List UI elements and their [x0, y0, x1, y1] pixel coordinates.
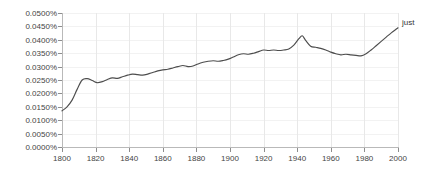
x-tick-label: 1920: [255, 154, 273, 163]
y-tick-label: 0.0400%: [25, 36, 57, 45]
x-tick-label: 1880: [187, 154, 205, 163]
y-tick-label: 0.0100%: [25, 116, 57, 125]
x-tick-label: 1860: [154, 154, 172, 163]
x-tick-mark: [230, 148, 231, 152]
y-axis-labels: 0.0500%0.0450%0.0400%0.0350%0.0300%0.025…: [0, 0, 57, 176]
x-tick-mark: [364, 148, 365, 152]
y-tick-mark: [58, 93, 62, 94]
y-tick-mark: [58, 80, 62, 81]
ngram-line-chart: 0.0500%0.0450%0.0400%0.0350%0.0300%0.025…: [0, 0, 423, 176]
x-tick-mark: [163, 148, 164, 152]
legend-label-just[interactable]: just: [402, 18, 414, 28]
y-tick-mark: [58, 40, 62, 41]
x-tick-mark: [62, 148, 63, 152]
y-tick-mark: [58, 53, 62, 54]
x-tick-mark: [96, 148, 97, 152]
y-tick-label: 0.0200%: [25, 89, 57, 98]
y-tick-label: 0.0300%: [25, 63, 57, 72]
x-tick-label: 1840: [120, 154, 138, 163]
x-tick-label: 1900: [221, 154, 239, 163]
y-tick-label: 0.0250%: [25, 76, 57, 85]
x-tick-label: 1960: [322, 154, 340, 163]
x-tick-label: 1800: [53, 154, 71, 163]
y-tick-mark: [58, 26, 62, 27]
y-tick-label: 0.0500%: [25, 9, 57, 18]
y-tick-label: 0.0150%: [25, 103, 57, 112]
x-tick-label: 1820: [87, 154, 105, 163]
x-tick-label: 1980: [355, 154, 373, 163]
y-tick-label: 0.0000%: [25, 143, 57, 152]
x-tick-mark: [196, 148, 197, 152]
y-tick-mark: [58, 67, 62, 68]
x-tick-label: 2000: [389, 154, 407, 163]
x-tick-label: 1940: [288, 154, 306, 163]
x-tick-mark: [129, 148, 130, 152]
y-tick-mark: [58, 13, 62, 14]
x-tick-mark: [297, 148, 298, 152]
y-tick-label: 0.0350%: [25, 49, 57, 58]
series-line-just: [62, 28, 398, 111]
y-tick-mark: [58, 107, 62, 108]
x-tick-mark: [398, 148, 399, 152]
y-tick-mark: [58, 134, 62, 135]
series-layer: [62, 13, 398, 147]
gridline-vertical: [398, 13, 399, 147]
y-tick-label: 0.0050%: [25, 130, 57, 139]
x-tick-mark: [331, 148, 332, 152]
y-tick-mark: [58, 120, 62, 121]
x-tick-mark: [264, 148, 265, 152]
y-tick-label: 0.0450%: [25, 22, 57, 31]
